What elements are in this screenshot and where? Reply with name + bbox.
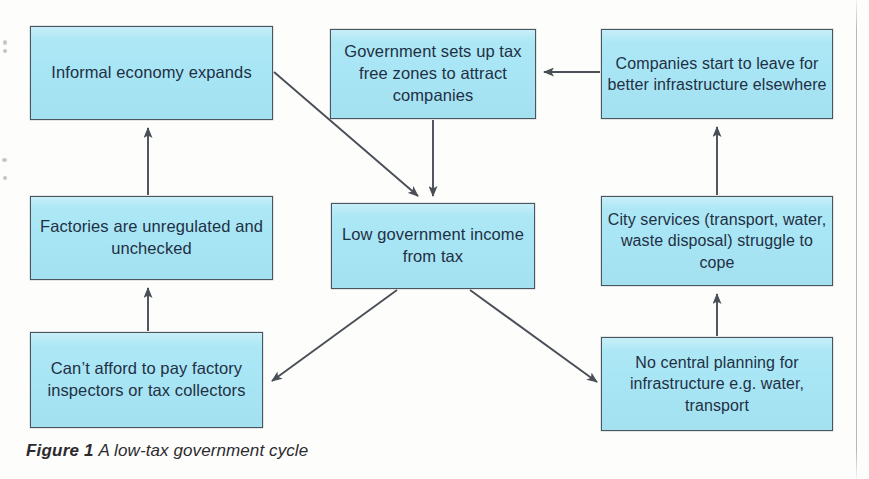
figure-caption-text: A low-tax government cycle [98, 441, 308, 460]
scan-artifact [2, 158, 7, 162]
node-informal-economy-label: Informal economy expands [35, 62, 268, 84]
node-tax-free-zones-label: Government sets up tax free zones to att… [335, 41, 531, 106]
figure-caption: Figure 1 A low-tax government cycle [26, 441, 308, 461]
figure-container: Informal economy expands Government sets… [0, 0, 869, 479]
arrow-lowgov-to-cantafford [272, 290, 397, 381]
node-cant-afford[interactable]: Can’t afford to pay factory inspectors o… [30, 332, 263, 428]
node-factories-unregulated[interactable]: Factories are unregulated and unchecked [30, 196, 273, 280]
scan-artifact [3, 176, 7, 180]
node-informal-economy[interactable]: Informal economy expands [30, 26, 273, 120]
page-edge-rule [856, 0, 857, 479]
node-tax-free-zones[interactable]: Government sets up tax free zones to att… [330, 29, 536, 119]
node-city-services[interactable]: City services (transport, water, waste d… [601, 196, 833, 286]
node-no-central-planning-label: No central planning for infrastructure e… [606, 352, 828, 415]
scan-artifact [3, 49, 7, 53]
node-factories-unregulated-label: Factories are unregulated and unchecked [35, 216, 268, 260]
figure-caption-label: Figure 1 [26, 441, 94, 460]
node-cant-afford-label: Can’t afford to pay factory inspectors o… [35, 358, 258, 402]
node-city-services-label: City services (transport, water, waste d… [606, 209, 828, 272]
node-companies-leave[interactable]: Companies start to leave for better infr… [601, 29, 833, 119]
node-low-government-income[interactable]: Low government income from tax [331, 203, 535, 289]
node-companies-leave-label: Companies start to leave for better infr… [606, 53, 828, 95]
scan-artifact [3, 40, 7, 45]
arrow-lowgov-to-noplanning [470, 290, 597, 382]
node-no-central-planning[interactable]: No central planning for infrastructure e… [601, 337, 833, 431]
node-low-government-income-label: Low government income from tax [336, 224, 530, 268]
